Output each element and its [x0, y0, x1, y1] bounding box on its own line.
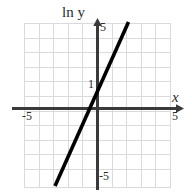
- graph-figure: ln y x 5 1 -5 -5 5: [0, 0, 192, 196]
- x-axis-tick-5: 5: [172, 110, 178, 122]
- y-axis: [93, 18, 102, 190]
- data-line: [55, 22, 129, 186]
- y-axis-tick-minus-5: -5: [99, 170, 109, 182]
- y-axis-tick-1: 1: [88, 78, 94, 90]
- y-axis-tick-5: 5: [100, 21, 106, 33]
- x-axis-tick-minus-5: -5: [22, 110, 32, 122]
- y-axis-label: ln y: [62, 5, 85, 20]
- graph-canvas: [0, 0, 192, 196]
- x-axis-label: x: [172, 90, 179, 105]
